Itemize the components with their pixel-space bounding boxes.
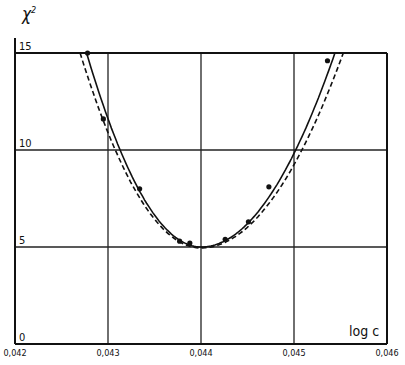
y-axis-title: χ2 [21, 4, 36, 24]
data-point [266, 184, 271, 189]
data-point [177, 239, 182, 244]
data-points [85, 50, 330, 245]
grid-lines [15, 53, 387, 344]
y-tick-label: 0 [19, 331, 25, 344]
x-tick-labels: 0,0420,0430,0440,0450,046 [3, 348, 398, 358]
x-tick-label: 0,043 [96, 348, 119, 358]
y-tick-label: 15 [19, 40, 32, 53]
data-point [187, 241, 192, 246]
data-point [223, 237, 228, 242]
data-point [137, 186, 142, 191]
y-tick-labels: 051015 [19, 40, 32, 344]
chi-square-chart: 0,0420,0430,0440,0450,046 051015 χ2 log … [0, 0, 405, 365]
x-tick-label: 0,042 [3, 348, 26, 358]
x-axis-title: log c [349, 323, 379, 339]
data-point [246, 219, 251, 224]
data-point [85, 50, 90, 55]
data-point [325, 58, 330, 63]
y-tick-label: 10 [19, 137, 32, 150]
x-tick-label: 0,044 [189, 348, 212, 358]
x-tick-label: 0,045 [282, 348, 305, 358]
y-tick-label: 5 [19, 234, 25, 247]
data-point [101, 116, 106, 121]
x-tick-label: 0,046 [375, 348, 398, 358]
